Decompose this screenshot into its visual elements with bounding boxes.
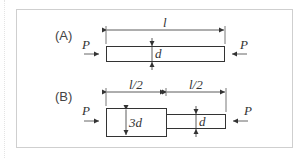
diameter-large-label: 3d — [128, 115, 143, 130]
diameter-label: d — [155, 46, 162, 61]
load-left-label: P — [81, 103, 90, 118]
length-right-label: l/2 — [189, 77, 203, 92]
load-left-label: P — [81, 37, 90, 52]
uniform-bar — [107, 47, 225, 62]
panel-b: (B) l/2 l/2 3d d P P — [55, 77, 252, 137]
panel-b-label: (B) — [55, 89, 72, 104]
length-label: l — [163, 15, 167, 30]
load-right-label: P — [243, 103, 252, 118]
load-right-label: P — [239, 37, 248, 52]
diameter-small-label: d — [199, 114, 206, 129]
panel-a: (A) l d P P — [55, 15, 248, 70]
panel-a-label: (A) — [55, 28, 72, 43]
bar-diagram: (A) l d P P (B) l/2 l/2 3 — [0, 0, 305, 158]
length-left-label: l/2 — [129, 77, 143, 92]
